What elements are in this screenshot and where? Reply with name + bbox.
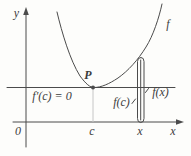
fc-leader-tick-icon [132, 99, 136, 104]
fc-label: f(c) [113, 95, 130, 109]
x-axis-arrow-icon [176, 119, 184, 125]
point-p-dot [91, 86, 95, 90]
x-axis-label: x [169, 124, 176, 138]
fx-label: f(x) [152, 85, 169, 99]
y-axis-arrow-icon [23, 7, 29, 15]
y-axis-label: y [13, 6, 20, 20]
point-p-label: P [84, 68, 92, 82]
curve-f-path [57, 4, 162, 88]
curve-label: f [166, 17, 171, 31]
derivative-equation-label: f′(c) = 0 [32, 89, 71, 103]
origin-label: 0 [15, 124, 21, 138]
fx-leader-tick-icon [146, 89, 149, 93]
figure-svg: y x 0 f P f′(c) = 0 f(c) f(x) c x [0, 0, 191, 156]
tick-x-label: x [136, 124, 143, 138]
function-minimum-diagram: y x 0 f P f′(c) = 0 f(c) f(x) c x [0, 0, 191, 156]
tick-c-label: c [89, 124, 95, 138]
